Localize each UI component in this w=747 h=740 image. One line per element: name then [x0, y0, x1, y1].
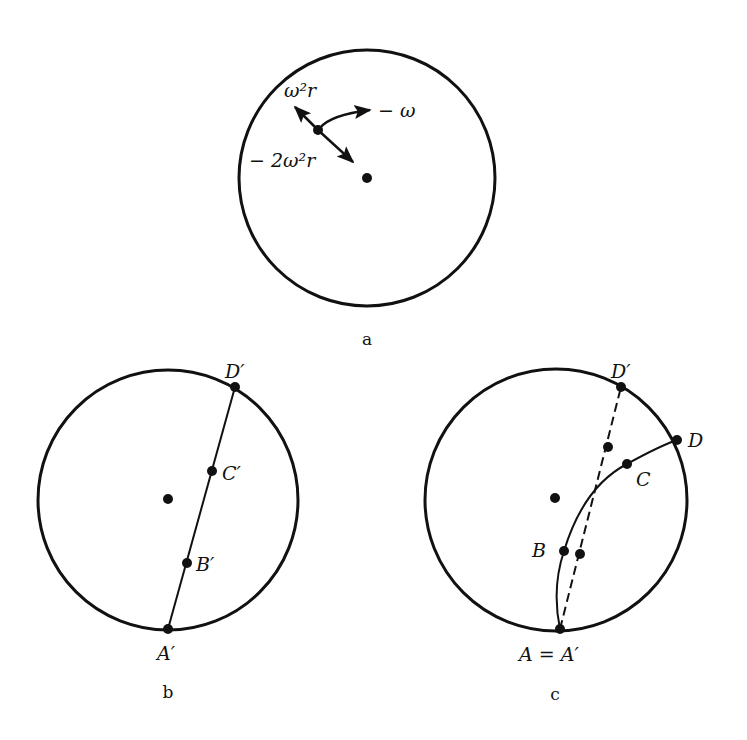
- figure-canvas: ω²r − 2ω²r − ω a A′ B′ C′ D′ b A = A′: [0, 0, 747, 740]
- point-b-prime: [182, 558, 192, 568]
- center-dot-b: [163, 494, 173, 504]
- label-d-prime-c: D′: [610, 360, 631, 382]
- label-centrifugal: ω²r: [284, 79, 318, 101]
- panel-b: A′ B′ C′ D′ b: [38, 360, 298, 702]
- label-c: C: [636, 468, 651, 490]
- label-d-prime: D′: [224, 360, 245, 382]
- coriolis-arrow: [318, 130, 353, 162]
- point-b: [559, 546, 569, 556]
- dashed-point-lower: [575, 549, 585, 559]
- label-b-prime: B′: [195, 553, 215, 575]
- panel-c: A = A′ B C D D′ c: [425, 360, 703, 704]
- label-rotation: − ω: [378, 99, 415, 121]
- point-d-prime: [230, 382, 240, 392]
- label-c-prime: C′: [222, 462, 242, 484]
- dashed-point-upper: [603, 442, 613, 452]
- centrifugal-arrow: [295, 107, 318, 130]
- panel-a: ω²r − 2ω²r − ω a: [239, 50, 495, 349]
- point-a: [555, 624, 565, 634]
- center-dot-a: [362, 173, 372, 183]
- point-c-prime: [207, 466, 217, 476]
- label-coriolis: − 2ω²r: [249, 149, 317, 171]
- point-a-prime: [163, 624, 173, 634]
- label-d: D: [687, 429, 703, 451]
- caption-a: a: [362, 329, 372, 349]
- curved-path: [557, 440, 677, 629]
- straight-path-b: [168, 387, 235, 629]
- dashed-straight-path: [560, 387, 621, 629]
- label-a-prime: A′: [155, 642, 176, 664]
- point-d-prime-c: [616, 382, 626, 392]
- point-d: [672, 435, 682, 445]
- rotation-arrow: [320, 110, 370, 128]
- center-dot-c: [550, 493, 560, 503]
- caption-c: c: [550, 684, 560, 704]
- label-a-equals-a-prime: A = A′: [517, 643, 579, 665]
- point-c: [622, 459, 632, 469]
- caption-b: b: [163, 682, 174, 702]
- label-b: B: [531, 539, 546, 561]
